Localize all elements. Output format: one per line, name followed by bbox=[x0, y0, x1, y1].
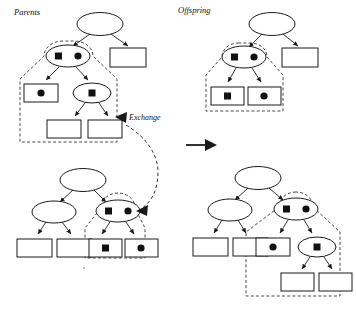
node-o2-root[interactable] bbox=[235, 167, 281, 190]
square-marker bbox=[105, 208, 112, 215]
square-marker bbox=[89, 90, 96, 97]
parents-label: Parents bbox=[13, 7, 41, 17]
circle-marker bbox=[124, 207, 131, 214]
node-o2-n2[interactable] bbox=[274, 198, 318, 220]
circle-marker bbox=[250, 53, 257, 60]
node-p1-n1[interactable] bbox=[46, 45, 90, 67]
node-p1-n2[interactable] bbox=[110, 48, 146, 67]
node-p1-root[interactable] bbox=[77, 13, 123, 36]
background bbox=[0, 0, 356, 310]
scan-speck bbox=[83, 267, 84, 268]
circle-marker bbox=[269, 243, 276, 250]
node-p2-n2[interactable] bbox=[96, 200, 140, 222]
node-p2-n4[interactable] bbox=[57, 239, 92, 257]
node-o2-n1[interactable] bbox=[208, 199, 252, 221]
node-p2-n3[interactable] bbox=[17, 239, 52, 257]
circle-marker bbox=[37, 89, 44, 96]
node-o2-n3[interactable] bbox=[193, 238, 228, 256]
circle-marker bbox=[302, 205, 309, 212]
node-p2-root[interactable] bbox=[60, 169, 106, 192]
square-marker bbox=[231, 54, 238, 61]
circle-marker bbox=[260, 92, 267, 99]
square-marker bbox=[224, 93, 231, 100]
offspring-label: Offspring bbox=[178, 5, 211, 15]
square-marker bbox=[314, 244, 321, 251]
node-o1-root[interactable] bbox=[249, 13, 295, 36]
circle-marker bbox=[137, 244, 144, 251]
node-o2-n7[interactable] bbox=[281, 273, 314, 291]
crossover-diagram-svg: Parents Offspring Exchange bbox=[0, 0, 356, 310]
square-marker bbox=[102, 245, 109, 252]
square-marker bbox=[55, 53, 62, 60]
node-p1-n5[interactable] bbox=[47, 120, 81, 138]
node-o2-n8[interactable] bbox=[319, 273, 352, 291]
diagram-canvas: Parents Offspring Exchange bbox=[0, 0, 356, 310]
exchange-label: Exchange bbox=[128, 113, 161, 122]
node-o1-n1[interactable] bbox=[222, 46, 266, 68]
square-marker bbox=[283, 206, 290, 213]
node-p2-n1[interactable] bbox=[32, 201, 76, 223]
node-p1-n6[interactable] bbox=[88, 120, 122, 138]
circle-marker bbox=[74, 52, 81, 59]
node-o1-n2[interactable] bbox=[282, 48, 318, 67]
